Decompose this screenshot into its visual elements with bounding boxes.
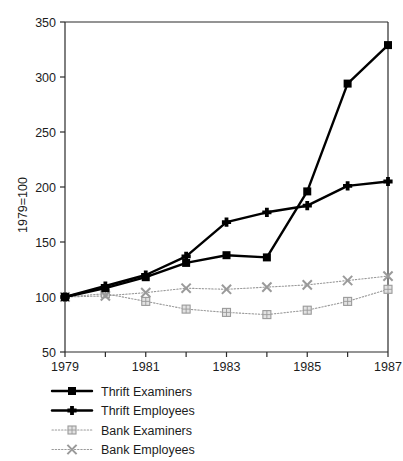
y-tick-label: 250 (35, 126, 56, 140)
data-point-marker (344, 80, 352, 88)
legend-label: Bank Employees (101, 443, 195, 457)
y-axis-title: 1979=100 (16, 177, 30, 233)
y-tick-label: 200 (35, 181, 56, 195)
y-tick-label: 50 (42, 346, 56, 360)
x-tick-label: 1981 (132, 360, 160, 374)
data-point-marker (303, 201, 312, 210)
legend-item-thrift-employees[interactable]: Thrift Employees (52, 404, 195, 418)
legend-item-bank-employees[interactable]: Bank Employees (52, 443, 195, 457)
x-axis-ticks: 19791981198319851987 (51, 352, 402, 374)
y-tick-label: 300 (35, 71, 56, 85)
data-point-marker (223, 251, 231, 259)
data-point-marker (263, 253, 271, 261)
legend-label: Thrift Employees (101, 404, 195, 418)
data-point-marker (223, 308, 231, 316)
series-line (65, 45, 388, 297)
data-point-marker (384, 285, 392, 293)
chart-figure: 50100150200250300350 1979198119831985198… (0, 0, 403, 461)
x-tick-label: 1979 (51, 360, 79, 374)
line-chart: 50100150200250300350 1979198119831985198… (0, 0, 403, 461)
y-tick-label: 150 (35, 236, 56, 250)
y-axis-ticks: 50100150200250300350 (35, 16, 65, 360)
series-thrift-examiners (61, 41, 392, 301)
y-tick-label: 100 (35, 291, 56, 305)
data-point-marker (262, 208, 271, 217)
data-point-marker (182, 305, 190, 313)
data-point-marker (142, 297, 150, 305)
legend-item-bank-examiners[interactable]: Bank Examiners (52, 424, 192, 438)
series-line (65, 182, 388, 298)
series-thrift-employees (60, 177, 392, 302)
data-point-marker (303, 187, 311, 195)
series-layer (60, 41, 392, 319)
y-tick-label: 350 (35, 16, 56, 30)
legend-marker-swatch (68, 387, 76, 395)
data-point-marker (303, 306, 311, 314)
data-point-marker (343, 181, 352, 190)
chart-legend: Thrift ExaminersThrift EmployeesBank Exa… (52, 385, 195, 458)
legend-label: Bank Examiners (101, 424, 192, 438)
data-point-marker (383, 177, 392, 186)
legend-marker-swatch (68, 426, 76, 434)
data-point-marker (344, 297, 352, 305)
x-tick-label: 1987 (374, 360, 402, 374)
plot-frame (65, 22, 388, 352)
legend-label: Thrift Examiners (101, 385, 192, 399)
data-point-marker (384, 41, 392, 49)
x-tick-label: 1983 (213, 360, 241, 374)
data-point-marker (263, 311, 271, 319)
legend-item-thrift-examiners[interactable]: Thrift Examiners (52, 385, 192, 399)
legend-marker-swatch (67, 406, 76, 415)
x-tick-label: 1985 (293, 360, 321, 374)
